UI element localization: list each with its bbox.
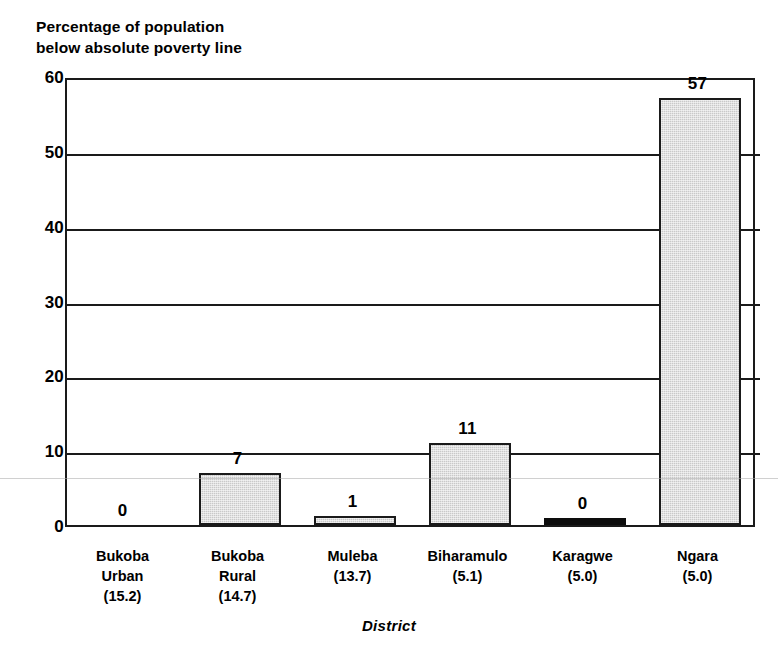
x-axis-title: District bbox=[0, 617, 778, 634]
bar-value-label: 1 bbox=[295, 492, 410, 512]
plot-area bbox=[65, 78, 755, 527]
y-axis-tick-label: 0 bbox=[18, 517, 64, 537]
x-axis-category-label: Muleba (13.7) bbox=[295, 546, 410, 586]
bar-value-label: 0 bbox=[65, 501, 180, 521]
y-axis-tick-label: 50 bbox=[18, 143, 64, 163]
gridline bbox=[67, 453, 753, 455]
bar bbox=[199, 473, 281, 525]
bar-value-label: 57 bbox=[640, 74, 755, 94]
y-axis-tick-label: 60 bbox=[18, 68, 64, 88]
y-axis-tick bbox=[753, 378, 760, 380]
bar-value-label: 0 bbox=[525, 494, 640, 514]
y-axis-tick bbox=[753, 154, 760, 156]
y-axis-tick-label: 40 bbox=[18, 218, 64, 238]
y-axis-tick bbox=[753, 304, 760, 306]
x-axis-category-label: Bukoba Rural (14.7) bbox=[180, 546, 295, 606]
x-axis-category-label: Karagwe (5.0) bbox=[525, 546, 640, 586]
gridline bbox=[67, 154, 753, 156]
bar bbox=[659, 98, 741, 525]
bar-value-label: 7 bbox=[180, 449, 295, 469]
gridline bbox=[67, 378, 753, 380]
y-axis-tick bbox=[753, 229, 760, 231]
x-axis-category-label: Bukoba Urban (15.2) bbox=[65, 546, 180, 606]
x-axis-category-label: Ngara (5.0) bbox=[640, 546, 755, 586]
x-axis-category-label: Biharamulo (5.1) bbox=[410, 546, 525, 586]
y-axis-tick-label: 10 bbox=[18, 442, 64, 462]
bar bbox=[544, 518, 626, 525]
y-axis-tick bbox=[753, 453, 760, 455]
y-axis-tick-label: 20 bbox=[18, 367, 64, 387]
gridline bbox=[67, 304, 753, 306]
gridline bbox=[67, 229, 753, 231]
bar-chart: Percentage of population below absolute … bbox=[0, 0, 778, 664]
y-axis-tick-label: 30 bbox=[18, 293, 64, 313]
bar bbox=[314, 516, 396, 525]
bar bbox=[429, 443, 511, 525]
bar-value-label: 11 bbox=[410, 419, 525, 439]
chart-title: Percentage of population below absolute … bbox=[36, 16, 456, 58]
